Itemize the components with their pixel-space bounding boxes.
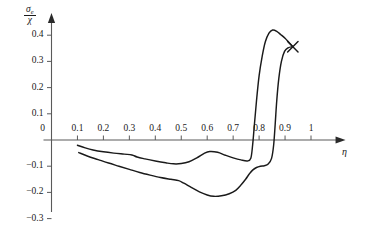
sigma-symbol: σ <box>26 4 31 14</box>
y-axis-label-denominator: χ <box>24 16 36 26</box>
y-axis-tick-label: 0.4 <box>16 30 44 40</box>
x-axis-tick-label: 0.2 <box>97 124 109 134</box>
y-axis-tick-label: 0.2 <box>16 83 44 93</box>
x-axis-tick-label: 0.6 <box>201 124 213 134</box>
curves-group <box>77 30 292 196</box>
curve-upper-branch <box>77 30 292 164</box>
chart-plot-area <box>0 0 370 235</box>
y-axis-tick-label: 0.1 <box>16 109 44 119</box>
sigma-subscript: e <box>31 8 34 15</box>
y-axis-tick-label: −0.3 <box>16 214 44 224</box>
x-axis-tick-label: 0.8 <box>253 124 265 134</box>
x-axis-tick-label: 0.7 <box>227 124 239 134</box>
x-axis-arrowhead <box>336 136 346 143</box>
x-axis-tick-label: 0.5 <box>175 124 187 134</box>
x-axis-label: η <box>342 146 347 157</box>
x-axis-tick-label: 0.3 <box>123 124 135 134</box>
x-axis-tick-label: 0 <box>40 124 45 134</box>
y-axis-tick-label: −0.1 <box>16 161 44 171</box>
x-axis-tick-label: 0.9 <box>279 124 291 134</box>
x-axis-tick-label: 0.1 <box>72 124 84 134</box>
x-axis-tick-label: 1 <box>309 124 314 134</box>
chart-figure: σe χ η 00.10.20.30.40.50.60.70.80.910.40… <box>0 0 370 235</box>
x-axis-tick-label: 0.4 <box>149 124 161 134</box>
y-axis-arrowhead <box>48 13 55 23</box>
y-axis-tick-label: −0.2 <box>16 188 44 198</box>
axes-group <box>44 13 346 212</box>
y-axis-label: σe χ <box>24 5 36 26</box>
y-axis-tick-label: 0.3 <box>16 57 44 67</box>
